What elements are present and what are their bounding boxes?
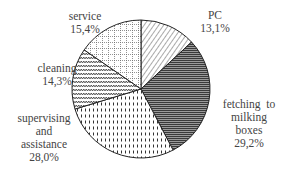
label-fetching-line3: boxes xyxy=(217,124,281,137)
label-supervising-line3: assistance xyxy=(12,138,76,151)
label-fetching-line2: milking xyxy=(217,111,281,124)
label-fetching: fetching to milking boxes 29,2% xyxy=(217,98,281,150)
label-supervising-value: 28,0% xyxy=(12,151,76,164)
label-cleaning: cleaning 14,3% xyxy=(32,62,82,88)
label-pc-name: PC xyxy=(198,9,232,22)
label-service-name: service xyxy=(60,10,110,23)
label-supervising: supervising and assistance 28,0% xyxy=(12,112,76,164)
label-service: service 15,4% xyxy=(60,10,110,36)
label-fetching-line1: fetching to xyxy=(217,98,281,111)
label-supervising-line1: supervising xyxy=(12,112,76,125)
label-pc: PC 13,1% xyxy=(198,9,232,35)
label-cleaning-name: cleaning xyxy=(32,62,82,75)
label-fetching-value: 29,2% xyxy=(217,137,281,150)
label-pc-value: 13,1% xyxy=(198,22,232,35)
label-service-value: 15,4% xyxy=(60,23,110,36)
pie-slices xyxy=(72,20,210,158)
label-cleaning-value: 14,3% xyxy=(32,75,82,88)
label-supervising-line2: and xyxy=(12,125,76,138)
